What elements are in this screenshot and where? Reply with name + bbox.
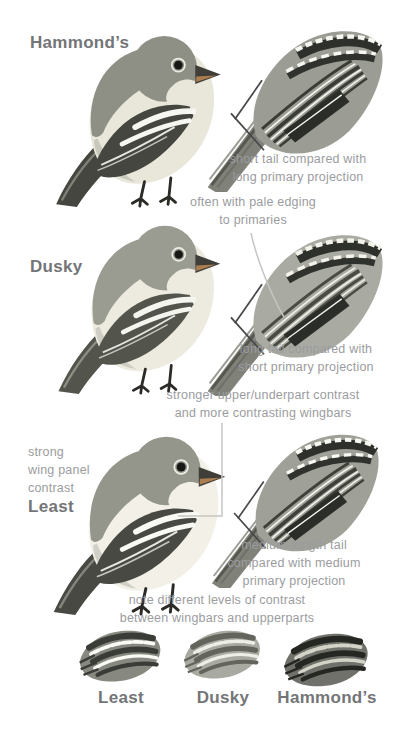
comparison-wing-least: [74, 627, 168, 687]
least-bird-illustration: [46, 420, 230, 616]
comparison-label-hammonds: Hammond’s: [277, 688, 377, 708]
comparison-note: note different levels of contrast betwee…: [102, 592, 332, 628]
least-wing-note: medium-length tail compared with medium …: [210, 537, 378, 590]
comparison-wing-dusky: [179, 627, 267, 684]
least-contrast-note: stronger upper/underpart contrast and mo…: [148, 387, 378, 423]
comparison-label-least: Least: [74, 688, 168, 708]
dusky-bird-illustration: [48, 210, 228, 395]
hammonds-bird-illustration: [48, 20, 226, 208]
comparison-label-dusky: Dusky: [176, 688, 270, 708]
hammonds-wing-note: short tail compared with long primary pr…: [210, 151, 386, 187]
comparison-wing-hammonds: [277, 630, 377, 692]
dusky-wing-note: long tail compared with short primary pr…: [228, 341, 384, 377]
field-guide-page: Hammond’s short tail compared with long …: [0, 0, 394, 748]
